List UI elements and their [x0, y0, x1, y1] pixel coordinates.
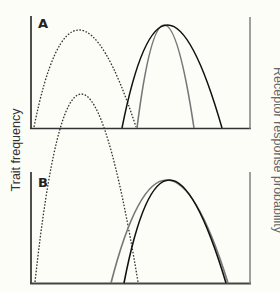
- panel-b-gray-curve: [111, 180, 228, 283]
- panel-b: [30, 94, 251, 284]
- y-axis-right-label: Receptor response probability: [271, 62, 280, 238]
- panel-b-black-curve: [124, 180, 226, 283]
- y-axis-left-label: Trait frequency: [9, 100, 23, 200]
- panel-a-gray-curve: [137, 25, 194, 128]
- panel-a-label: A: [38, 16, 48, 31]
- panel-b-label: B: [38, 175, 48, 190]
- figure-canvas: [0, 0, 280, 292]
- panel-a-dotted-curve: [34, 30, 136, 127]
- panel-a-black-curve: [122, 25, 222, 128]
- panel-a: [30, 16, 251, 129]
